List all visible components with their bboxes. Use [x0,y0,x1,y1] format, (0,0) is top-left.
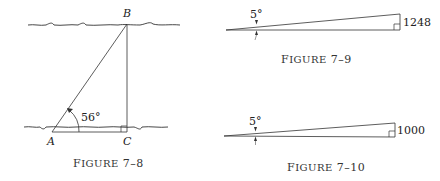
river-bank-bottom [24,127,168,129]
point-b-label: B [122,7,131,20]
right-angle-mark [389,131,395,137]
figures-canvas: 56° B A C FIGURE7–8 5° 1248 FIGURE7–9 5°… [0,0,440,181]
side-label: 1000 [397,124,425,137]
figure-7-8: 56° B A C FIGURE7–8 [24,7,180,170]
angle-tick [255,35,257,40]
angle-label: 56° [81,111,101,124]
angle-arrow-up-icon [254,137,257,142]
right-angle-mark [394,24,400,30]
figure-caption: FIGURE7–10 [287,161,365,174]
base [224,136,395,137]
point-c-label: C [123,135,132,148]
figure-7-9: 5° 1248 FIGURE7–9 [226,8,431,66]
figure-caption: FIGURE7–9 [281,53,352,66]
figure-7-10: 5° 1000 FIGURE7–10 [224,115,425,174]
angle-label: 5° [249,115,262,128]
point-a-label: A [46,135,55,148]
river-bank-top [28,23,180,26]
angle-arc [69,110,79,132]
angle-arrow-up-icon [255,31,258,36]
side-label: 1248 [403,16,431,29]
angle-label: 5° [250,8,263,21]
arc-arrow-icon [67,108,73,113]
figure-caption: FIGURE7–8 [73,157,144,170]
